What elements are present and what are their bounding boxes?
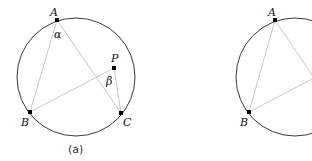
chord-ab <box>30 20 57 112</box>
point-b <box>28 110 32 114</box>
chord-ab-b <box>249 20 275 112</box>
label-a-b: A <box>267 6 276 19</box>
label-a: A <box>49 6 58 19</box>
chord-ac <box>57 20 121 113</box>
label-b: B <box>20 116 29 129</box>
figure-b: A B <box>236 6 312 136</box>
label-b-b: B <box>239 116 248 129</box>
point-c <box>119 111 123 115</box>
segment-pc <box>114 68 121 113</box>
point-p <box>112 66 116 70</box>
diagram-canvas: A B C P α β (a) A B <box>0 0 312 161</box>
circle-a <box>17 18 135 136</box>
angle-beta-label: β <box>105 75 112 88</box>
chord-b-right <box>249 78 312 112</box>
chord-a-right <box>275 20 312 78</box>
label-p: P <box>110 52 119 65</box>
point-b-b <box>247 110 251 114</box>
segment-bp <box>30 68 114 112</box>
label-c: C <box>123 116 132 129</box>
angle-alpha-label: α <box>54 28 62 41</box>
figure-a: A B C P α β (a) <box>17 6 135 156</box>
caption-a: (a) <box>68 143 83 156</box>
